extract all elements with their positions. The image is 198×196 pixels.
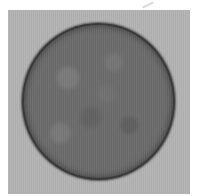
round-cell (22, 23, 175, 180)
artifact-mark (142, 2, 154, 9)
